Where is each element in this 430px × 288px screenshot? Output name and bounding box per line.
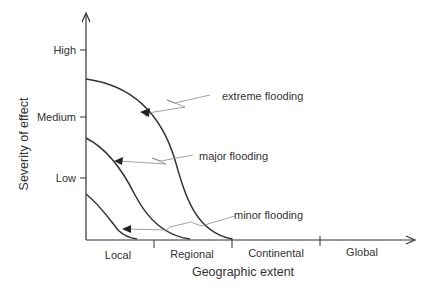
- x-label-regional: Regional: [170, 248, 213, 260]
- x-axis-title: Geographic extent: [192, 265, 295, 279]
- y-axis-title: Severity of effect: [17, 97, 31, 190]
- major-flooding-label: major flooding: [199, 150, 268, 162]
- extreme-flooding-label: extreme flooding: [222, 90, 303, 102]
- major-leader-line: [118, 155, 193, 164]
- flood-severity-diagram: High Medium Low Local Regional Continent…: [0, 0, 430, 288]
- x-label-local: Local: [105, 249, 131, 261]
- minor-arrowhead-icon: [122, 225, 131, 233]
- y-label-high: High: [53, 44, 76, 56]
- major-flooding-curve: [86, 138, 190, 239]
- y-label-medium: Medium: [37, 111, 76, 123]
- x-label-continental: Continental: [248, 247, 304, 259]
- extreme-leader-line: [148, 95, 210, 113]
- y-label-low: Low: [56, 172, 76, 184]
- minor-leader-line: [126, 216, 235, 230]
- minor-flooding-label: minor flooding: [234, 209, 303, 221]
- x-label-global: Global: [346, 246, 378, 258]
- extreme-arrowhead-fill-icon: [140, 108, 150, 117]
